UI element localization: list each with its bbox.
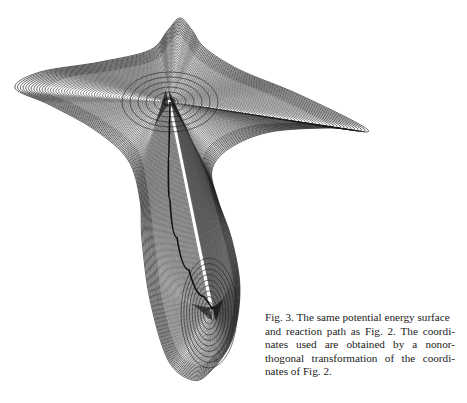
caption-line: Fig. 3. The same potential energy surfac… — [265, 311, 455, 325]
caption-line: thogonal transformation of the coordi- — [265, 352, 455, 366]
caption-line: nates used are obtained by a nonor- — [265, 338, 455, 352]
lower-minimum-marker — [210, 306, 214, 310]
caption-line: and reaction path as Fig. 2. The coordi- — [265, 325, 455, 339]
caption-line: nates of Fig. 2. — [265, 365, 455, 379]
figure-caption: Fig. 3. The same potential energy surfac… — [265, 311, 455, 379]
